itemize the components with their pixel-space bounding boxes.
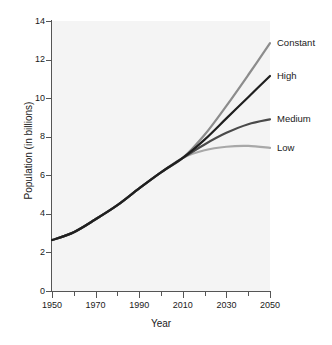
x-axis-tick-major — [226, 292, 227, 298]
x-axis-tick-major — [52, 292, 53, 298]
y-axis-tick — [46, 137, 51, 138]
population-projection-chart: 02468101214 195019701990201020302050 Con… — [0, 0, 332, 345]
x-axis-tick-minor — [117, 292, 118, 296]
x-axis-title: Year — [52, 318, 270, 329]
x-axis-tick-label: 2050 — [260, 300, 280, 310]
y-axis-tick — [46, 175, 51, 176]
x-axis-tick-major — [96, 292, 97, 298]
series-label-high: High — [277, 71, 297, 81]
plot-area — [52, 21, 270, 291]
y-axis-tick — [46, 60, 51, 61]
x-axis-tick-label: 2030 — [216, 300, 236, 310]
series-label-medium: Medium — [277, 114, 311, 124]
y-axis-line — [51, 20, 52, 292]
x-axis-tick-minor — [74, 292, 75, 296]
y-axis-tick — [46, 21, 51, 22]
series-label-low: Low — [277, 143, 294, 153]
y-axis-tick-label: 12 — [35, 55, 45, 64]
x-axis-tick-minor — [248, 292, 249, 296]
x-axis-tick-label: 1970 — [86, 300, 106, 310]
x-axis-tick-minor — [205, 292, 206, 296]
y-axis-tick-label: 0 — [40, 287, 45, 296]
y-axis-tick-label: 14 — [35, 17, 45, 26]
x-axis-tick-major — [183, 292, 184, 298]
x-axis-tick-major — [270, 292, 271, 298]
x-axis-tick-major — [139, 292, 140, 298]
x-axis-tick-label: 2010 — [173, 300, 193, 310]
y-axis-tick — [46, 291, 51, 292]
y-axis-title: Population (in billions) — [23, 71, 34, 231]
y-axis-tick-label: 4 — [40, 209, 45, 218]
x-axis-tick-label: 1950 — [42, 300, 62, 310]
y-axis-tick-label: 2 — [40, 248, 45, 257]
y-axis-tick-label: 6 — [40, 171, 45, 180]
x-axis-tick-label: 1990 — [129, 300, 149, 310]
x-axis-tick-minor — [161, 292, 162, 296]
y-axis-tick — [46, 98, 51, 99]
series-label-constant: Constant — [277, 38, 315, 48]
y-axis-tick-label: 8 — [40, 132, 45, 141]
y-axis-tick-label: 10 — [35, 94, 45, 103]
y-axis-tick — [46, 252, 51, 253]
y-axis-tick — [46, 214, 51, 215]
